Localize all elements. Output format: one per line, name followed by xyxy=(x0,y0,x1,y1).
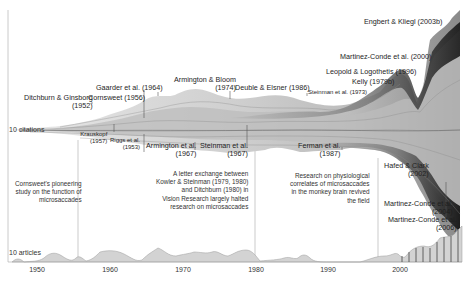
annotation-leopold: Leopold & Logothetis (1996) xyxy=(326,68,416,76)
annotation-cornsweet: Cornsweet (1956) xyxy=(88,94,145,102)
annotation-armington67: Armington et al. (1967) xyxy=(146,142,196,159)
annotation-hafed: Hafed & Clark (2002) xyxy=(384,162,429,179)
annotation-martinez2006: Martinez-Conde et al. (2006) xyxy=(388,216,457,233)
x-tick-1960: 1960 xyxy=(102,266,118,273)
x-tick-1990: 1990 xyxy=(320,266,336,273)
note-cornsweet: Cornsweet's pioneering study on the func… xyxy=(15,180,82,205)
annotation-steinman67: Steinman et al. (1967) xyxy=(200,142,248,159)
x-tick-1970: 1970 xyxy=(175,266,191,273)
citations-scale-label: 10 citations xyxy=(9,126,44,133)
annotation-gaarder: Gaarder et al. (1964) xyxy=(96,84,163,92)
annotation-ferman: Ferman et al. (1987) xyxy=(298,142,340,159)
x-tick-1980: 1980 xyxy=(248,266,264,273)
annotation-armington-bloom: Armington & Bloom (1974) xyxy=(174,76,236,93)
note-research-revived: Research on physiological correlates of … xyxy=(290,172,370,205)
annotation-steinman73: Steinman et al. (1973) xyxy=(308,89,367,96)
articles-scale-label: 10 articles xyxy=(9,249,41,256)
note-letter-exchange: A letter exchange between Kowler & Stein… xyxy=(156,170,248,211)
annotation-martinez2000: Martinez-Conde et al. (2000) xyxy=(340,53,432,61)
annotation-deuble: Deuble & Elsner (1986) xyxy=(235,84,310,92)
annotation-ditchburn: Ditchburn & Ginsborg (1952) xyxy=(24,94,93,111)
annotation-engbert: Engbert & Kliegl (2003b) xyxy=(364,18,442,26)
annotation-kelly: Kelly (1979b) xyxy=(352,78,394,86)
annotation-riggs: Riggs et al. (1953) xyxy=(110,137,140,151)
x-tick-1950: 1950 xyxy=(29,266,45,273)
annotation-krauskopf: Krauskopf (1957) xyxy=(80,131,107,145)
x-tick-2000: 2000 xyxy=(392,266,408,273)
